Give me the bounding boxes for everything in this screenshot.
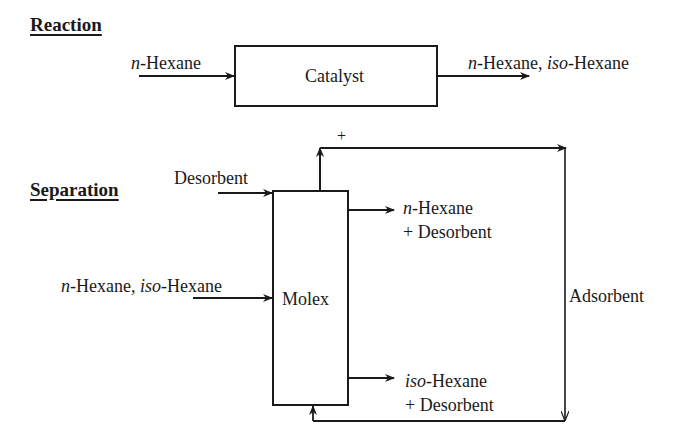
- iso-hexane-product-label: iso-Hexane + Desorbent: [405, 371, 494, 415]
- separation-heading: Separation: [30, 179, 119, 201]
- iso-hexane-product-suffix: -Hexane: [426, 371, 487, 391]
- feed-n: n: [61, 276, 70, 296]
- desorbent-input-label: Desorbent: [174, 168, 248, 188]
- feed-part1: -Hexane,: [70, 276, 140, 296]
- n-hexane-product-line2: + Desorbent: [403, 222, 492, 242]
- reaction-heading: Reaction: [30, 14, 102, 36]
- n-hexane-product-suffix: -Hexane: [412, 198, 473, 218]
- iso-hexane-product-line2: + Desorbent: [405, 395, 494, 415]
- process-diagram: Reaction n-Hexane Catalyst n-Hexane, iso…: [0, 0, 693, 445]
- reaction-output-label: n-Hexane, iso-Hexane: [468, 53, 629, 73]
- adsorbent-label: Adsorbent: [569, 286, 644, 306]
- reaction-output-part1: -Hexane,: [477, 53, 547, 73]
- iso-hexane-product-prefix: iso: [405, 371, 426, 391]
- recycle-plus-sign: +: [337, 126, 346, 146]
- iso-hexane-product-line1: iso-Hexane: [405, 371, 494, 391]
- feed-input-label: n-Hexane, iso-Hexane: [61, 276, 222, 296]
- n-hexane-product-prefix: n: [403, 198, 412, 218]
- n-hexane-product-label: n-Hexane + Desorbent: [403, 198, 492, 242]
- reaction-output-n: n: [468, 53, 477, 73]
- reaction-input-suffix: -Hexane: [140, 53, 201, 73]
- reaction-input-prefix: n: [131, 53, 140, 73]
- molex-label: Molex: [282, 289, 329, 310]
- reaction-input-label: n-Hexane: [131, 53, 201, 73]
- reaction-output-iso: iso: [547, 53, 568, 73]
- feed-part2: -Hexane: [161, 276, 222, 296]
- feed-iso: iso: [140, 276, 161, 296]
- reaction-output-part2: -Hexane: [568, 53, 629, 73]
- n-hexane-product-line1: n-Hexane: [403, 198, 492, 218]
- catalyst-label: Catalyst: [305, 66, 364, 87]
